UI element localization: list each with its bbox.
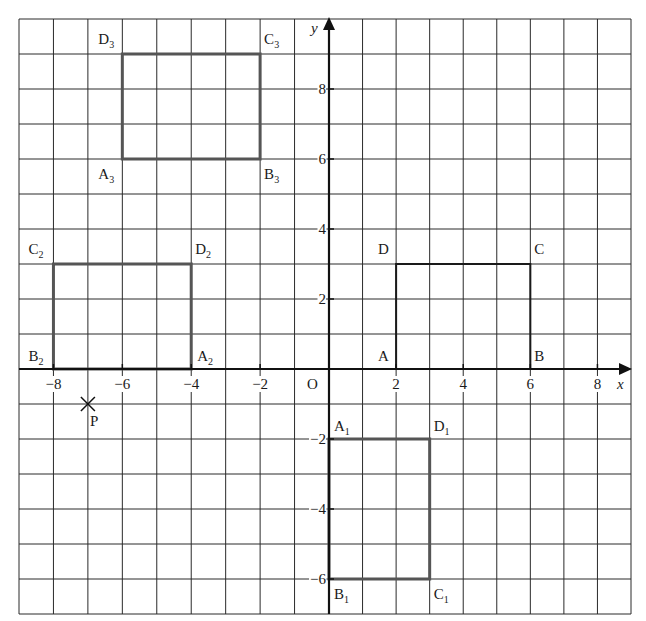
coordinate-diagram: ABCDA1B1C1D1A2B2C2D2A3B3C3D3−8−6−4−22468…	[0, 0, 646, 621]
y-axis-label: y	[309, 20, 318, 36]
y-tick-label: −4	[310, 501, 326, 517]
vertex-label-c2: C2	[28, 241, 43, 260]
x-tick-label: −2	[252, 376, 268, 392]
vertex-label-a3: A3	[98, 166, 114, 185]
x-axis-arrow-icon	[619, 363, 632, 375]
x-axis-label: x	[616, 376, 624, 392]
y-tick-label: 2	[319, 291, 327, 307]
labels: ABCDA1B1C1D1A2B2C2D2A3B3C3D3−8−6−4−22468…	[28, 20, 624, 605]
y-tick-label: −6	[310, 571, 326, 587]
rectangles	[53, 54, 530, 579]
y-tick-label: −2	[310, 431, 326, 447]
vertex-label-c: C	[534, 241, 544, 257]
vertex-label-d3: D3	[98, 31, 114, 50]
x-tick-label: 6	[527, 376, 535, 392]
vertex-label-b: B	[534, 348, 544, 364]
vertex-label-d1: D1	[434, 418, 450, 437]
y-tick-label: 8	[319, 81, 327, 97]
vertex-label-a2: A2	[197, 348, 213, 367]
vertex-label-a1: A1	[334, 418, 350, 437]
y-tick-label: 6	[319, 151, 327, 167]
coordinate-plane: ABCDA1B1C1D1A2B2C2D2A3B3C3D3−8−6−4−22468…	[0, 0, 646, 621]
vertex-label-d2: D2	[195, 241, 211, 260]
x-tick-label: −6	[114, 376, 130, 392]
x-tick-label: 2	[392, 376, 400, 392]
x-tick-label: −4	[183, 376, 199, 392]
origin-label: O	[307, 376, 318, 392]
vertex-label-b1: B1	[334, 586, 349, 605]
vertex-label-a: A	[378, 348, 389, 364]
x-tick-label: 8	[594, 376, 602, 392]
y-tick-label: 4	[319, 221, 327, 237]
vertex-label-b2: B2	[28, 348, 43, 367]
vertex-label-c3: C3	[264, 31, 279, 50]
vertex-label-b3: B3	[264, 166, 279, 185]
axes	[19, 17, 632, 614]
vertex-label-d: D	[378, 241, 389, 257]
x-tick-label: −8	[45, 376, 61, 392]
vertex-label-c1: C1	[434, 586, 449, 605]
x-tick-label: 4	[459, 376, 467, 392]
grid-lines	[19, 19, 631, 614]
point-label-p: P	[90, 413, 98, 429]
